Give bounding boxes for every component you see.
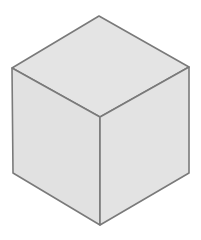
cube-diagram [0,0,201,240]
